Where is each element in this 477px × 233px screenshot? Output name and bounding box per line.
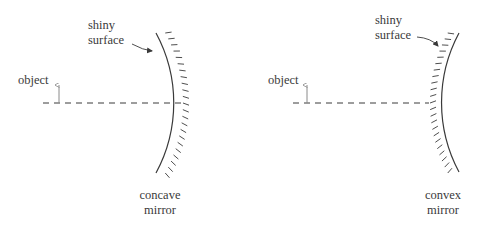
concave-panel (43, 32, 189, 178)
convex-shiny-label: shiny (375, 13, 402, 27)
convex-surface-label: surface (375, 28, 411, 42)
concave-shiny-label: shiny (88, 18, 115, 32)
convex-shiny-surface-pointer-icon (417, 37, 438, 46)
convex-object-label: object (268, 73, 299, 87)
convex-panel (293, 33, 459, 173)
convex-mirror-label-line1: convex (418, 188, 468, 202)
concave-object-label: object (18, 73, 49, 87)
concave-mirror-label-line1: concave (135, 188, 185, 202)
concave-surface-label: surface (88, 33, 124, 47)
concave-mirror-label-line2: mirror (135, 203, 185, 217)
concave-shiny-surface-pointer-icon (132, 44, 152, 51)
convex-mirror-label-line2: mirror (418, 203, 468, 217)
concave-mirror-hatching (165, 32, 189, 178)
